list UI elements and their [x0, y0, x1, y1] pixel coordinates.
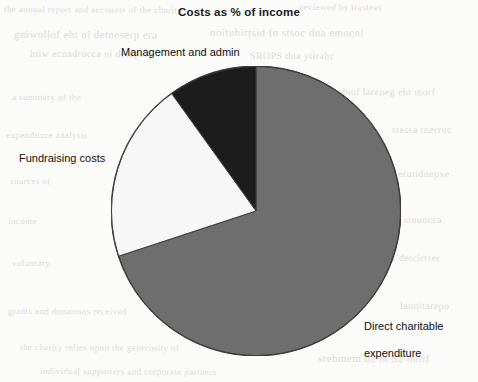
bleed-text: sources of	[10, 176, 51, 186]
pie-label-management-and-admin: Management and admin	[121, 46, 240, 60]
pie-label-direct-line-2: expenditure	[364, 347, 443, 361]
pie-label-fundraising-costs: Fundraising costs	[19, 152, 105, 166]
bleed-text: noitubirtsid fo stsoc dna emocni	[210, 26, 364, 39]
bleed-text: expenditure analysis	[6, 130, 88, 140]
chart-page: the annual report and accounts of the ch…	[0, 0, 478, 382]
bleed-text: erutidnepxe	[398, 168, 450, 179]
pie-label-direct-line-1: Direct charitable	[364, 320, 443, 334]
pie-slices	[111, 66, 401, 356]
bleed-text: a summary of the	[12, 92, 81, 102]
pie-chart	[111, 66, 401, 356]
bleed-text: gniwollof eht ni detneserp era	[14, 28, 157, 41]
bleed-text: grants and donations received	[8, 306, 127, 316]
chart-title: Costs as % of income	[0, 6, 478, 18]
bleed-text: SROPS dna ytirahc	[250, 50, 335, 61]
bleed-text: individual supporters and corporate part…	[40, 366, 217, 377]
bleed-text: voluntary	[12, 258, 50, 268]
bleed-text: income	[8, 216, 37, 226]
bleed-text: stnuocca	[404, 214, 442, 225]
pie-label-direct-charitable-expenditure: Direct charitable expenditure	[364, 306, 443, 374]
pie-svg	[111, 66, 401, 356]
